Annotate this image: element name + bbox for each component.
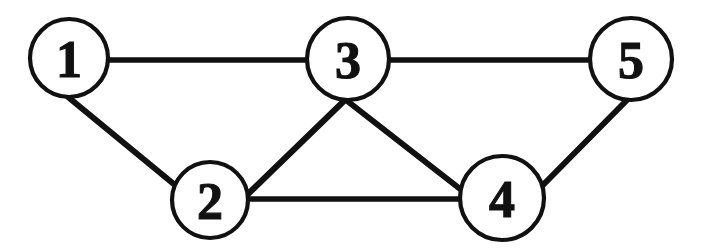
graph-node-1[interactable]: 1: [30, 19, 108, 97]
graph-node-5[interactable]: 5: [590, 18, 672, 100]
graph-node-label-5: 5: [618, 32, 644, 89]
graph-node-3[interactable]: 3: [307, 18, 389, 100]
graph-node-label-3: 3: [335, 32, 361, 89]
graph-canvas: 12345: [0, 0, 705, 252]
graph-node-4[interactable]: 4: [460, 156, 544, 240]
graph-node-label-2: 2: [197, 173, 223, 230]
graph-node-label-1: 1: [56, 31, 82, 88]
graph-figure: 12345: [0, 0, 705, 252]
graph-node-label-4: 4: [489, 171, 515, 228]
graph-node-2[interactable]: 2: [172, 162, 248, 238]
